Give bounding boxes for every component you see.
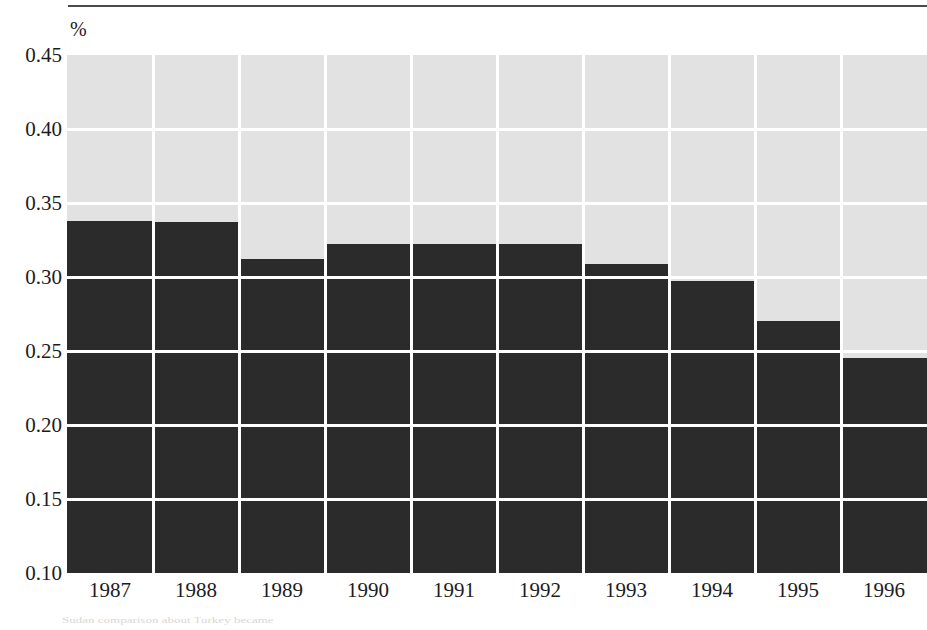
x-axis: 1987198819891990199119921993199419951996: [67, 578, 927, 610]
x-axis-tick-label: 1992: [519, 578, 561, 603]
y-axis-unit-label: %: [70, 18, 87, 41]
y-axis-tick-label: 0.20: [4, 413, 62, 438]
vertical-gridline: [238, 55, 241, 573]
vertical-gridline: [324, 55, 327, 573]
y-axis-tick-label: 0.10: [4, 561, 62, 586]
vertical-gridline: [496, 55, 499, 573]
page-bleed-through-text: Sudan comparison about Turkey became: [62, 616, 274, 626]
bar: [411, 244, 497, 573]
vertical-gridline: [840, 55, 843, 573]
bar: [325, 244, 411, 573]
x-axis-tick-label: 1990: [347, 578, 389, 603]
y-axis-tick-label: 0.40: [4, 117, 62, 142]
x-axis-tick-label: 1987: [89, 578, 131, 603]
y-axis: 0.450.400.350.300.250.200.150.10: [0, 0, 62, 630]
x-axis-tick-label: 1993: [605, 578, 647, 603]
x-axis-tick-label: 1995: [777, 578, 819, 603]
bar: [67, 221, 153, 573]
y-axis-tick-label: 0.35: [4, 191, 62, 216]
bar: [583, 264, 669, 573]
y-axis-tick-label: 0.30: [4, 265, 62, 290]
x-axis-tick-label: 1996: [863, 578, 905, 603]
vertical-gridline: [582, 55, 585, 573]
bar: [669, 281, 755, 573]
y-axis-tick-label: 0.15: [4, 487, 62, 512]
bar: [239, 259, 325, 573]
vertical-gridline: [410, 55, 413, 573]
y-axis-tick-label: 0.45: [4, 43, 62, 68]
y-axis-tick-label: 0.25: [4, 339, 62, 364]
x-axis-tick-label: 1994: [691, 578, 733, 603]
bar-chart-figure: % 0.450.400.350.300.250.200.150.10 19871…: [0, 0, 927, 630]
bar: [841, 358, 927, 573]
vertical-gridline: [152, 55, 155, 573]
x-axis-tick-label: 1988: [175, 578, 217, 603]
plot-area: [67, 55, 927, 573]
bar: [497, 244, 583, 573]
bar: [755, 321, 841, 573]
x-axis-tick-label: 1989: [261, 578, 303, 603]
bar: [153, 222, 239, 573]
vertical-gridline: [668, 55, 671, 573]
page-top-rule: [68, 5, 927, 7]
vertical-gridline: [754, 55, 757, 573]
x-axis-tick-label: 1991: [433, 578, 475, 603]
